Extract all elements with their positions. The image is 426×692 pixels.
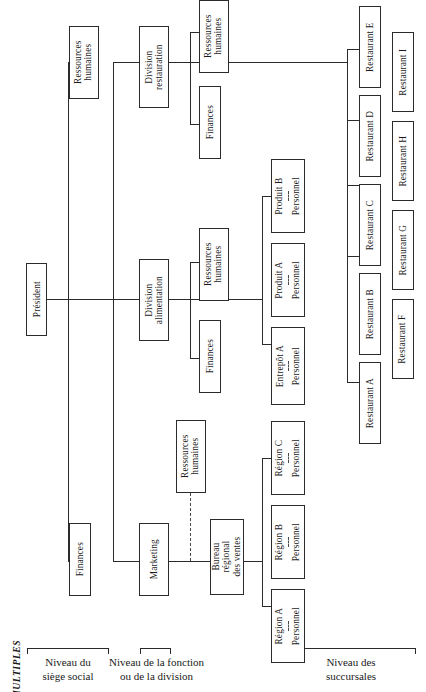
node-restauration-ressources-humaines[interactable]: Ressources humaines — [199, 0, 229, 73]
edge-regions-to-region-a — [262, 606, 271, 607]
node-division-restauration[interactable]: Division restauration — [139, 26, 169, 108]
node-hq-rh-line2: humaines — [84, 44, 94, 81]
edge-president-to-division-trunk — [68, 299, 113, 300]
node-bureau-line2: régional — [222, 541, 232, 573]
node-entrepot-a[interactable]: Entrepôt A Personnel — [271, 327, 305, 405]
node-produit-a-personnel-label: Personnel — [291, 261, 301, 299]
node-produit-b[interactable]: Produit B Personnel — [271, 159, 305, 233]
node-rest-rh-label: Ressources humaines — [204, 15, 224, 58]
org-chart-canvas: DANS UNE ENTREPRISE À SUCCURSALES MULTIP… — [0, 0, 426, 692]
node-entrepot-a-label: Entrepôt A — [275, 345, 285, 387]
caption-siege-line2: siège social — [42, 670, 93, 682]
node-hq-finances[interactable]: Finances — [69, 523, 91, 596]
node-alimentation-ressources-humaines[interactable]: Ressources humaines — [199, 228, 229, 301]
edge-trunk-to-div-alimentation — [113, 299, 140, 300]
edge-division-trunk-vertical — [113, 62, 114, 561]
node-division-alimentation[interactable]: Division alimentation — [139, 259, 169, 341]
node-restaurant-a[interactable]: Restaurant A — [359, 362, 381, 444]
node-region-a[interactable]: Région A Personnel — [271, 589, 305, 663]
node-div-alimentation-line1: Division — [144, 283, 154, 316]
node-restaurant-i-label: Restaurant I — [398, 49, 408, 96]
node-alim-rh-line1: Ressources — [204, 243, 214, 286]
node-region-b-personnel-label: Personnel — [291, 523, 301, 561]
edge-produits-to-produit-b — [262, 196, 271, 197]
node-restaurant-h[interactable]: Restaurant H — [392, 121, 414, 201]
node-produit-a-bottom-cell: Personnel — [289, 275, 305, 285]
node-region-a-bottom-cell: Personnel — [289, 621, 305, 631]
edge-restauration-staff-vertical — [190, 32, 191, 124]
caption-division-line1: Niveau de la fonction — [109, 656, 204, 668]
node-region-a-label: Région A — [275, 608, 285, 645]
node-alimentation-finances[interactable]: Finances — [199, 320, 221, 393]
node-region-c-label: Région C — [275, 440, 285, 477]
node-restaurant-b-label: Restaurant B — [365, 289, 375, 339]
node-restaurant-f[interactable]: Restaurant F — [392, 299, 414, 379]
node-marketing-label: Marketing — [149, 539, 159, 579]
node-region-c-top-cell: Région C — [272, 453, 289, 463]
edge-div-alimentation-out — [168, 299, 190, 300]
node-restaurant-i[interactable]: Restaurant I — [392, 32, 414, 112]
edge-bureau-to-regions — [243, 561, 262, 562]
edge-alimentation-staff-vertical — [190, 262, 191, 358]
node-president[interactable]: Président — [26, 263, 47, 336]
edge-regions-to-region-c — [262, 458, 271, 459]
node-restaurant-c[interactable]: Restaurant C — [359, 184, 381, 266]
node-restaurant-g-label: Restaurant G — [398, 225, 408, 276]
node-bureau-regional-label: Bureau régional des ventes — [211, 537, 242, 577]
node-produit-a-top-cell: Produit A — [272, 275, 289, 285]
node-region-c[interactable]: Région C Personnel — [271, 421, 305, 495]
node-restaurant-b[interactable]: Restaurant B — [359, 273, 381, 355]
node-region-b-label: Région B — [275, 524, 285, 561]
node-alim-finances-label: Finances — [205, 339, 215, 373]
edge-produits-vertical — [262, 196, 263, 344]
node-region-b[interactable]: Région B Personnel — [271, 505, 305, 579]
edge-trunk-hq-vertical — [68, 62, 69, 561]
node-div-restauration-line2: restauration — [154, 44, 164, 90]
node-restaurant-e[interactable]: Restaurant E — [359, 6, 381, 88]
page-title: DANS UNE ENTREPRISE À SUCCURSALES MULTIP… — [11, 640, 22, 692]
node-region-c-personnel-label: Personnel — [291, 439, 301, 477]
node-marketing[interactable]: Marketing — [139, 523, 169, 596]
node-president-label: Président — [31, 282, 41, 318]
caption-succursales-line1: Niveau des — [326, 656, 375, 668]
edge-mkt-rh-dashed — [190, 493, 191, 561]
edge-spine-to-restaurant-e — [347, 49, 359, 50]
node-div-alimentation-line2: alimentation — [154, 276, 164, 324]
node-hq-rh-label: Ressources humaines — [74, 41, 94, 84]
caption-level-succursales: Niveau des succursales — [295, 655, 407, 683]
node-div-alimentation-label: Division alimentation — [144, 276, 164, 324]
node-hq-ressources-humaines[interactable]: Ressources humaines — [69, 26, 99, 99]
node-produit-b-top-cell: Produit B — [272, 191, 289, 201]
node-restaurant-g[interactable]: Restaurant G — [392, 210, 414, 290]
node-region-c-bottom-cell: Personnel — [289, 453, 305, 463]
node-produit-a[interactable]: Produit A Personnel — [271, 243, 305, 317]
caption-succursales-line2: succursales — [326, 670, 376, 682]
node-mkt-rh-line1: Ressources — [181, 435, 191, 478]
node-bureau-line1: Bureau — [211, 543, 221, 571]
edge-regions-vertical — [262, 458, 263, 606]
node-bureau-line3: des ventes — [232, 537, 242, 577]
node-div-restauration-label: Division restauration — [144, 44, 164, 90]
edge-spine-to-restaurant-d — [347, 120, 359, 121]
bracket-level-division — [140, 648, 171, 654]
node-region-a-top-cell: Région A — [272, 621, 289, 631]
node-restaurant-d[interactable]: Restaurant D — [359, 95, 381, 177]
title-anchor: DANS UNE ENTREPRISE À SUCCURSALES MULTIP… — [11, 640, 12, 641]
node-region-b-bottom-cell: Personnel — [289, 537, 305, 547]
edge-div-restauration-out — [168, 62, 190, 63]
node-entrepot-a-bottom-cell: Personnel — [289, 361, 305, 371]
node-bureau-regional-des-ventes[interactable]: Bureau régional des ventes — [210, 519, 244, 595]
caption-siege-line1: Niveau du — [45, 656, 91, 668]
node-entrepot-a-top-cell: Entrepôt A — [272, 361, 289, 371]
node-alim-rh-line2: humaines — [214, 246, 224, 283]
node-restaurant-c-label: Restaurant C — [365, 200, 375, 250]
edge-president-trunk — [46, 299, 68, 300]
node-restauration-finances[interactable]: Finances — [199, 86, 221, 159]
node-produit-b-personnel-label: Personnel — [291, 177, 301, 215]
node-marketing-ressources-humaines[interactable]: Ressources humaines — [176, 420, 206, 493]
node-div-restauration-line1: Division — [144, 50, 154, 83]
node-alim-rh-label: Ressources humaines — [204, 243, 224, 286]
node-restaurant-e-label: Restaurant E — [365, 22, 375, 72]
node-restaurant-h-label: Restaurant H — [398, 136, 408, 187]
node-restaurant-d-label: Restaurant D — [365, 111, 375, 162]
